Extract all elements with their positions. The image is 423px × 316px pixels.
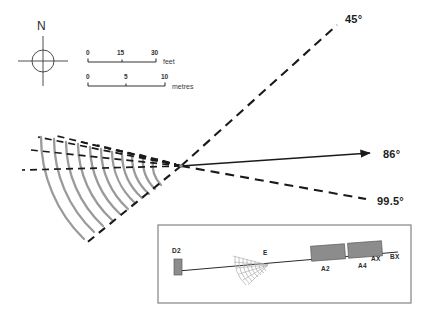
scale-feet-tick-2: 30	[151, 50, 158, 57]
scale-metres-tick-2: 10	[161, 74, 168, 81]
scale-metres-tick-1: 5	[124, 74, 128, 81]
survey-diagram: N 0 15 30 feet 0 5 10 metres 45° 86° 99.…	[0, 0, 423, 316]
ray-45-label: 45°	[345, 14, 362, 25]
feature-a2-block	[311, 244, 346, 261]
feature-d2-label: D2	[172, 248, 181, 255]
feature-d2-block	[174, 259, 182, 275]
feature-a2-label: A2	[321, 266, 330, 273]
feature-e-label: E	[263, 250, 268, 257]
feature-ax-label: AX	[371, 256, 380, 263]
scale-metres-unit: metres	[172, 83, 193, 90]
north-label: N	[37, 20, 46, 32]
inset-frame	[158, 225, 411, 303]
scale-feet-unit: feet	[163, 58, 175, 65]
feature-a4-label: A4	[358, 263, 367, 270]
ray-99-5-label: 99.5°	[377, 196, 404, 207]
feature-bx-label: BX	[390, 254, 399, 261]
scale-metres-tick-0: 0	[86, 74, 90, 81]
ray-86-label: 86°	[383, 149, 400, 160]
scale-feet-tick-0: 0	[86, 50, 90, 57]
scale-feet-tick-1: 15	[117, 50, 124, 57]
